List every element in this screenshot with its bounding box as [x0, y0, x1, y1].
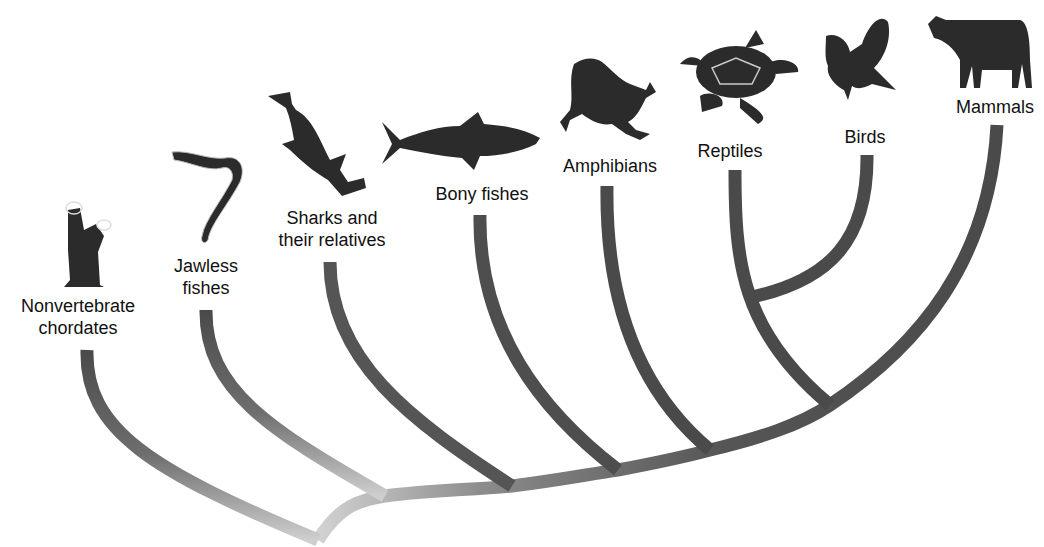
turtle-icon [680, 30, 798, 124]
label-line: chordates [21, 317, 135, 339]
label-line: Amphibians [563, 155, 657, 177]
taxon-label-amphibians: Amphibians [563, 155, 657, 177]
taxon-label-reptiles: Reptiles [697, 140, 762, 162]
label-line: Nonvertebrate [21, 295, 135, 317]
label-line: Mammals [956, 96, 1034, 118]
label-line: Birds [844, 126, 885, 148]
label-line: Bony fishes [435, 183, 528, 205]
cladogram: Nonvertebrate chordates Jawless fishes S… [0, 0, 1044, 547]
branch-amphibians [607, 186, 710, 450]
branch-bony [480, 215, 618, 470]
taxon-label-sharks: Sharks and their relatives [278, 207, 385, 251]
bird-icon [826, 19, 897, 100]
label-line: Sharks and [278, 207, 385, 229]
tuna-icon [382, 112, 540, 170]
label-line: fishes [174, 277, 238, 299]
branch-nonvertebrate [87, 350, 318, 540]
tunicate-icon [64, 202, 111, 287]
frog-icon [560, 59, 656, 141]
backbone-branch [318, 125, 997, 540]
taxon-label-nonvertebrate: Nonvertebrate chordates [21, 295, 135, 339]
branch-birds [752, 155, 867, 297]
cow-icon [928, 16, 1032, 88]
taxon-label-bony: Bony fishes [435, 183, 528, 205]
taxon-label-mammals: Mammals [956, 96, 1034, 118]
hammerhead-shark-icon [268, 92, 366, 196]
tree-svg [0, 0, 1044, 547]
taxon-label-jawless: Jawless fishes [174, 255, 238, 299]
taxon-label-birds: Birds [844, 126, 885, 148]
lamprey-icon [172, 152, 242, 243]
branch-jawless [206, 310, 385, 496]
label-line: Reptiles [697, 140, 762, 162]
label-line: Jawless [174, 255, 238, 277]
label-line: their relatives [278, 229, 385, 251]
